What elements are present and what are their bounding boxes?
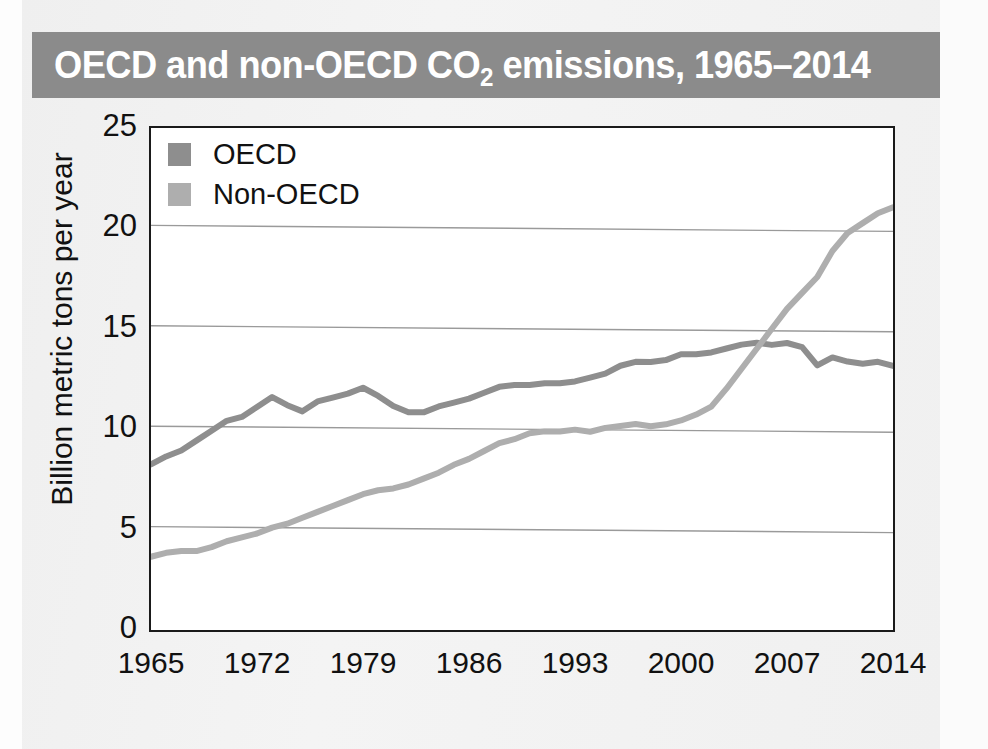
x-tick-label: 1979	[330, 646, 397, 680]
data-series-group	[151, 207, 893, 556]
gridlines	[151, 225, 893, 532]
legend-label-non-oecd: Non-OECD	[213, 179, 360, 209]
x-tick-label: 1986	[436, 646, 503, 680]
y-axis-tick-labels: 2520151050	[75, 126, 137, 632]
y-axis-title: Billion metric tons per year	[45, 99, 79, 559]
legend-swatch-non-oecd	[168, 183, 191, 206]
x-axis-tick-labels: 19651972197919861993200020072014	[149, 646, 909, 696]
y-tick-label: 10	[77, 409, 137, 445]
y-tick-label: 25	[77, 108, 137, 144]
gridline	[151, 426, 893, 432]
y-tick-label: 20	[77, 208, 137, 244]
legend-item-oecd: OECD	[168, 136, 297, 172]
series-line-oecd	[151, 343, 893, 465]
legend-item-non-oecd: Non-OECD	[168, 176, 360, 212]
figure-page: OECD and non-OECD CO2 emissions, 1965–20…	[0, 0, 988, 749]
chart: Billion metric tons per year 2520151050 …	[0, 0, 988, 749]
x-tick-label: 1965	[118, 646, 185, 680]
x-tick-label: 2000	[648, 646, 715, 680]
legend-label-oecd: OECD	[213, 139, 297, 169]
legend: OECD Non-OECD	[168, 136, 418, 214]
gridline	[151, 326, 893, 332]
legend-swatch-oecd	[168, 143, 191, 166]
series-line-non-oecd	[151, 207, 893, 556]
y-tick-label: 0	[77, 610, 137, 646]
x-tick-label: 1972	[224, 646, 291, 680]
y-tick-label: 5	[77, 510, 137, 546]
x-tick-label: 2014	[860, 646, 927, 680]
x-tick-label: 1993	[542, 646, 609, 680]
y-tick-label: 15	[77, 309, 137, 345]
gridline	[151, 225, 893, 231]
x-tick-label: 2007	[754, 646, 821, 680]
